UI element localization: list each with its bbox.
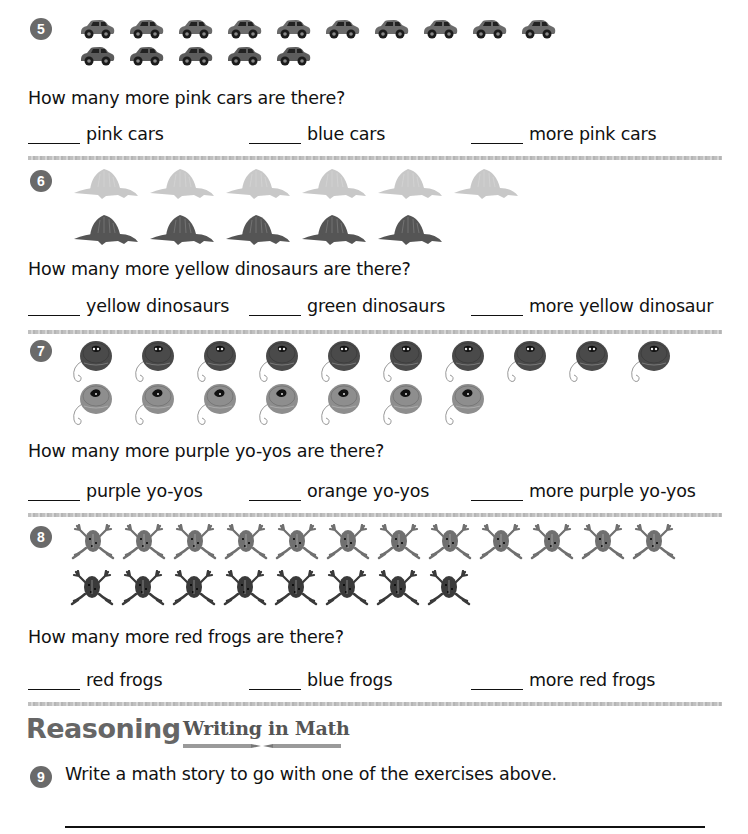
pink-cars-row xyxy=(78,18,557,44)
answer-row: yellow dinosaurs green dinosaurs more ye… xyxy=(28,296,728,322)
answer-pink-cars: pink cars xyxy=(28,124,164,144)
answer-blank[interactable] xyxy=(471,672,523,690)
answer-purple-yoyos: purple yo-yos xyxy=(28,481,203,501)
section-divider xyxy=(28,156,722,160)
writing-prompt: Write a math story to go with one of the… xyxy=(65,764,557,784)
answer-yellow-dinosaurs: yellow dinosaurs xyxy=(28,296,229,316)
yoyo-icon xyxy=(70,382,118,434)
frog-icon xyxy=(530,524,574,564)
car-icon xyxy=(176,45,214,71)
frog-icon xyxy=(122,524,166,564)
yoyo-icon xyxy=(318,382,366,434)
exercise-number-badge: 8 xyxy=(30,526,52,548)
exercise-number-badge: 9 xyxy=(30,766,52,788)
yoyo-icon xyxy=(132,382,180,434)
answer-blue-cars: blue cars xyxy=(249,124,385,144)
answer-more-red-frogs: more red frogs xyxy=(471,670,655,690)
question-text: How many more red frogs are there? xyxy=(28,627,344,647)
blue-frogs-row xyxy=(70,570,471,610)
car-icon xyxy=(78,45,116,71)
car-icon xyxy=(372,18,410,44)
answer-blank[interactable] xyxy=(28,672,80,690)
answer-label: orange yo-yos xyxy=(307,481,429,501)
yoyo-icon xyxy=(504,339,552,391)
answer-label: yellow dinosaurs xyxy=(86,296,229,316)
frog-icon xyxy=(428,524,472,564)
yoyo-icon xyxy=(194,382,242,434)
answer-label: more yellow dinosaur xyxy=(529,296,713,316)
answer-blank[interactable] xyxy=(471,298,523,316)
exercise-number-badge: 6 xyxy=(30,170,52,192)
answer-more-purple-yoyos: more purple yo-yos xyxy=(471,481,696,501)
answer-orange-yoyos: orange yo-yos xyxy=(249,481,429,501)
answer-row: red frogs blue frogs more red frogs xyxy=(28,670,728,696)
answer-label: pink cars xyxy=(86,124,164,144)
answer-blank[interactable] xyxy=(28,298,80,316)
frog-icon xyxy=(377,524,421,564)
question-text: How many more purple yo-yos are there? xyxy=(28,441,384,461)
section-divider xyxy=(28,330,722,334)
car-icon xyxy=(323,18,361,44)
answer-blank[interactable] xyxy=(249,483,301,501)
writing-in-math-heading: Writing in Math xyxy=(183,717,350,739)
yoyo-icon xyxy=(442,382,490,434)
dinosaur-icon xyxy=(72,166,140,204)
frog-icon xyxy=(172,570,216,610)
dinosaur-icon xyxy=(72,212,140,250)
red-frogs-row xyxy=(71,524,676,564)
frog-icon xyxy=(479,524,523,564)
frog-icon xyxy=(173,524,217,564)
answer-label: more pink cars xyxy=(529,124,657,144)
answer-red-frogs: red frogs xyxy=(28,670,162,690)
answer-blank[interactable] xyxy=(471,126,523,144)
frog-icon xyxy=(275,524,319,564)
answer-row: purple yo-yos orange yo-yos more purple … xyxy=(28,481,728,507)
frog-icon xyxy=(121,570,165,610)
dinosaur-icon xyxy=(148,166,216,204)
yoyo-icon xyxy=(566,339,614,391)
answer-blank[interactable] xyxy=(471,483,523,501)
yoyo-icon xyxy=(628,339,676,391)
question-text: How many more pink cars are there? xyxy=(28,88,345,108)
answer-blank[interactable] xyxy=(249,672,301,690)
dinosaur-icon xyxy=(376,166,444,204)
car-icon xyxy=(225,18,263,44)
car-icon xyxy=(470,18,508,44)
answer-blank[interactable] xyxy=(28,126,80,144)
car-icon xyxy=(274,45,312,71)
yoyo-icon xyxy=(380,382,428,434)
exercise-number-badge: 5 xyxy=(30,18,52,40)
pencils-icon xyxy=(183,743,341,749)
frog-icon xyxy=(325,570,369,610)
car-icon xyxy=(127,18,165,44)
answer-label: blue cars xyxy=(307,124,385,144)
frog-icon xyxy=(632,524,676,564)
orange-yoyos-row xyxy=(70,382,490,434)
frog-icon xyxy=(70,570,114,610)
answer-more-yellow-dinosaurs: more yellow dinosaur xyxy=(471,296,713,316)
answer-row: pink cars blue cars more pink cars xyxy=(28,124,728,150)
reasoning-heading: Reasoning xyxy=(26,713,180,744)
car-icon xyxy=(176,18,214,44)
answer-label: green dinosaurs xyxy=(307,296,445,316)
answer-blank[interactable] xyxy=(28,483,80,501)
frog-icon xyxy=(224,524,268,564)
frog-icon xyxy=(223,570,267,610)
answer-writing-line[interactable] xyxy=(65,826,705,828)
frog-icon xyxy=(376,570,420,610)
dinosaur-icon xyxy=(452,166,520,204)
frog-icon xyxy=(326,524,370,564)
car-icon xyxy=(225,45,263,71)
answer-label: red frogs xyxy=(86,670,162,690)
dinosaur-icon xyxy=(224,212,292,250)
dinosaur-icon xyxy=(300,166,368,204)
answer-blank[interactable] xyxy=(249,126,301,144)
exercise-number-badge: 7 xyxy=(30,340,52,362)
frog-icon xyxy=(581,524,625,564)
answer-blank[interactable] xyxy=(249,298,301,316)
answer-label: blue frogs xyxy=(307,670,392,690)
dinosaur-icon xyxy=(300,212,368,250)
yoyo-icon xyxy=(256,382,304,434)
answer-green-dinosaurs: green dinosaurs xyxy=(249,296,445,316)
section-divider xyxy=(28,513,722,517)
